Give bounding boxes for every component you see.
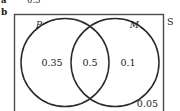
venn-diagram-figure: a 0.3 b P M S 0.35 0.5 0.1 0.05	[0, 0, 180, 111]
region-value-intersection: 0.5	[82, 57, 97, 68]
venn-diagram-canvas: P M S 0.35 0.5 0.1 0.05	[0, 0, 180, 111]
universal-set-label-s: S	[167, 16, 174, 27]
set-label-m: M	[129, 20, 140, 30]
region-value-left-only: 0.35	[41, 57, 62, 68]
region-value-right-only: 0.1	[120, 57, 135, 68]
set-label-p: P	[35, 20, 43, 30]
region-value-outside: 0.05	[137, 98, 158, 109]
